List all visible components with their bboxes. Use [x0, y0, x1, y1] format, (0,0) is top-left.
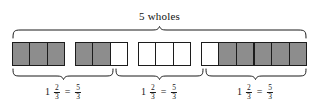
cell — [201, 42, 219, 66]
denominator: 3 — [150, 92, 156, 101]
cell — [173, 42, 191, 66]
numerator: 2 — [246, 84, 252, 92]
lower-brace-2 — [116, 69, 203, 80]
improper-fraction: 5 3 — [75, 84, 81, 100]
equals-sign: = — [255, 87, 265, 97]
equals-sign: = — [159, 87, 169, 97]
mixed-fraction: 2 3 — [150, 84, 156, 100]
cell — [218, 42, 236, 66]
whole-1 — [12, 42, 65, 66]
mixed-whole-part: 1 — [237, 87, 243, 97]
mixed-whole-part: 1 — [141, 87, 147, 97]
cell — [29, 42, 47, 66]
improper-fraction: 5 3 — [171, 84, 177, 100]
cell — [254, 42, 272, 66]
denominator: 3 — [75, 92, 81, 101]
cell — [47, 42, 65, 66]
denominator: 3 — [246, 92, 252, 101]
equation-2: 1 2 3 = 5 3 — [141, 84, 177, 100]
improper-fraction: 5 3 — [267, 84, 273, 100]
numerator: 2 — [150, 84, 156, 92]
fraction-diagram: 5 wholes — [0, 0, 319, 110]
whole-5 — [254, 42, 307, 66]
cell — [75, 42, 93, 66]
equation-row: 1 2 3 = 5 3 1 2 3 = 5 3 1 — [0, 84, 319, 108]
denominator: 3 — [267, 92, 273, 101]
cell — [236, 42, 254, 66]
equals-sign: = — [63, 87, 73, 97]
equation-3: 1 2 3 = 5 3 — [237, 84, 273, 100]
whole-bars — [12, 42, 307, 66]
whole-4 — [201, 42, 254, 66]
lower-brace-3 — [206, 69, 306, 80]
numerator: 5 — [267, 84, 273, 92]
numerator: 2 — [54, 84, 60, 92]
denominator: 3 — [171, 92, 177, 101]
mixed-whole-part: 1 — [45, 87, 51, 97]
equation-1: 1 2 3 = 5 3 — [45, 84, 81, 100]
denominator: 3 — [54, 92, 60, 101]
cell — [110, 42, 128, 66]
whole-3 — [138, 42, 191, 66]
cell — [138, 42, 156, 66]
mixed-fraction: 2 3 — [54, 84, 60, 100]
top-brace — [13, 27, 306, 39]
cell — [92, 42, 110, 66]
whole-2 — [75, 42, 128, 66]
mixed-fraction: 2 3 — [246, 84, 252, 100]
cell — [271, 42, 289, 66]
cell — [289, 42, 307, 66]
numerator: 5 — [171, 84, 177, 92]
numerator: 5 — [75, 84, 81, 92]
cell — [155, 42, 173, 66]
cell — [12, 42, 30, 66]
lower-brace-1 — [13, 69, 113, 80]
